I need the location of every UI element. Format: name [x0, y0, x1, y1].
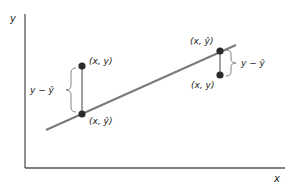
residual-diagram: y x (x, y) (x, ŷ) y − ŷ (x, ŷ) (x, y) y … [0, 0, 296, 187]
right-residual-label: y − ŷ [240, 58, 266, 68]
right-predicted-point [216, 47, 223, 54]
right-observed-label: (x, y) [191, 80, 214, 90]
left-predicted-point [78, 110, 85, 117]
right-observed-point [216, 71, 223, 78]
right-predicted-label: (x, ŷ) [190, 36, 213, 46]
y-axis-label: y [9, 13, 17, 24]
left-residual-label: y − ŷ [29, 85, 55, 95]
right-brace-icon [226, 50, 236, 76]
left-observed-point [78, 62, 85, 69]
left-brace-icon [66, 68, 76, 112]
left-observed-label: (x, y) [89, 56, 112, 66]
x-axis-label: x [273, 173, 280, 184]
left-predicted-label: (x, ŷ) [89, 116, 112, 126]
